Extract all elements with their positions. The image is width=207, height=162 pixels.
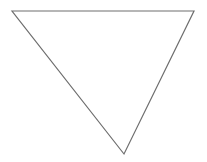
drawing-canvas	[0, 0, 207, 162]
triangle-shape	[12, 11, 194, 154]
shape-svg	[0, 0, 207, 162]
